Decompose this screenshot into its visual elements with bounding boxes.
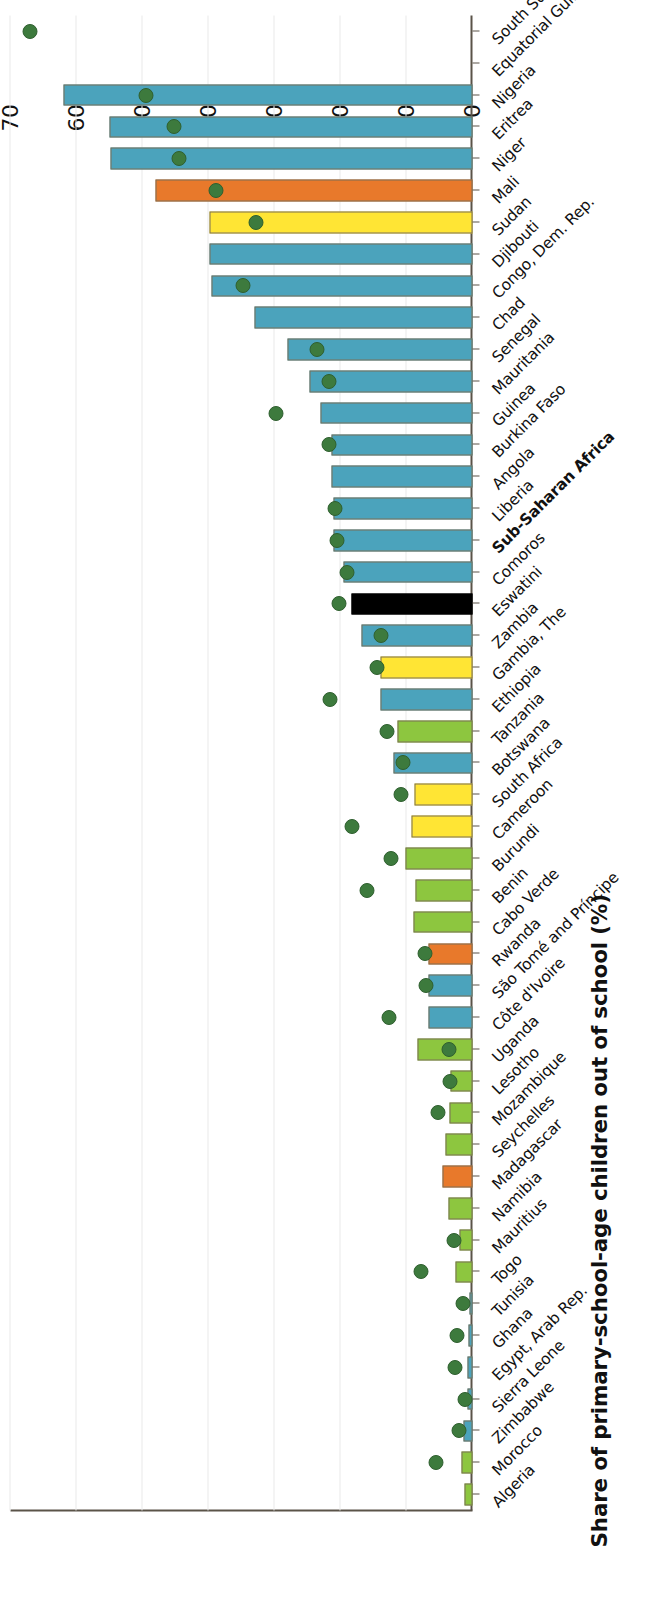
bar-chad xyxy=(254,306,472,328)
category-tick xyxy=(472,1493,479,1494)
category-tick xyxy=(472,952,479,953)
category-tick xyxy=(472,666,479,667)
plot-wrapper: Share of primary-school-age children out… xyxy=(0,0,651,1609)
category-tick xyxy=(472,1143,479,1144)
dot-marker xyxy=(327,501,342,516)
bar-liberia xyxy=(333,497,472,519)
dot-marker xyxy=(208,182,223,197)
bar-niger xyxy=(110,147,472,169)
bar-c-te-d-ivoire xyxy=(428,1006,472,1028)
category-tick xyxy=(472,412,479,413)
bar-benin xyxy=(415,879,472,901)
dot-marker xyxy=(441,1041,456,1056)
bar-sub-saharan-africa xyxy=(333,529,472,551)
category-tick xyxy=(472,1048,479,1049)
value-axis-line xyxy=(10,1509,472,1511)
gridline xyxy=(75,15,76,1510)
dot-marker xyxy=(379,723,394,738)
bar-gambia-the xyxy=(380,656,472,678)
category-tick xyxy=(472,221,479,222)
dot-marker xyxy=(344,819,359,834)
category-tick xyxy=(472,634,479,635)
bar-guinea xyxy=(320,402,472,424)
dot-marker xyxy=(138,87,153,102)
category-tick xyxy=(472,1239,479,1240)
category-tick xyxy=(472,30,479,31)
bar-eritrea xyxy=(109,116,472,138)
bar-rwanda xyxy=(428,943,472,965)
category-tick xyxy=(472,602,479,603)
bar-egypt-arab-rep xyxy=(467,1356,472,1378)
dot-marker xyxy=(447,1359,462,1374)
category-tick xyxy=(472,793,479,794)
bar-tanzania xyxy=(397,720,472,742)
dot-marker xyxy=(446,1232,461,1247)
dot-marker xyxy=(395,755,410,770)
category-tick xyxy=(472,475,479,476)
plot-area: AlgeriaMoroccoZimbabweSierra LeoneEgypt,… xyxy=(10,15,472,1510)
dot-marker xyxy=(430,1105,445,1120)
dot-marker xyxy=(373,628,388,643)
category-tick xyxy=(472,316,479,317)
category-tick xyxy=(472,921,479,922)
gridline xyxy=(9,15,10,1510)
dot-marker xyxy=(268,405,283,420)
category-tick xyxy=(472,1111,479,1112)
category-tick xyxy=(472,889,479,890)
bar-ethiopia xyxy=(380,688,472,710)
category-tick xyxy=(472,253,479,254)
category-tick xyxy=(472,1429,479,1430)
category-tick xyxy=(472,571,479,572)
category-tick xyxy=(472,1398,479,1399)
category-tick xyxy=(472,507,479,508)
bar-cameroon xyxy=(411,815,472,837)
dot-marker xyxy=(171,151,186,166)
bar-south-africa xyxy=(414,784,472,806)
category-tick xyxy=(472,443,479,444)
bar-namibia xyxy=(448,1197,472,1219)
category-tick xyxy=(472,730,479,731)
dot-marker xyxy=(383,850,398,865)
gridline xyxy=(207,15,208,1510)
dot-marker xyxy=(22,23,37,38)
gridline xyxy=(141,15,142,1510)
bar-burkina-faso xyxy=(331,434,472,456)
chart-axis-title: Share of primary-school-age children out… xyxy=(586,827,611,1547)
bar-mali xyxy=(155,179,472,201)
bar-nigeria xyxy=(63,84,472,106)
category-tick xyxy=(472,984,479,985)
category-tick xyxy=(472,825,479,826)
bar-togo xyxy=(455,1261,472,1283)
category-tick xyxy=(472,1461,479,1462)
category-tick xyxy=(472,125,479,126)
category-tick xyxy=(472,539,479,540)
dot-marker xyxy=(248,214,263,229)
dot-marker xyxy=(451,1423,466,1438)
dot-marker xyxy=(449,1328,464,1343)
category-tick xyxy=(472,1302,479,1303)
bar-angola xyxy=(331,465,472,487)
category-tick xyxy=(472,1080,479,1081)
dot-marker xyxy=(428,1455,443,1470)
category-tick xyxy=(472,698,479,699)
category-tick xyxy=(472,1366,479,1367)
dot-marker xyxy=(321,437,336,452)
gridline xyxy=(273,15,274,1510)
category-tick xyxy=(472,157,479,158)
gridline xyxy=(339,15,340,1510)
bar-eswatini xyxy=(351,593,472,615)
category-tick xyxy=(472,1334,479,1335)
category-tick xyxy=(472,1270,479,1271)
category-tick xyxy=(472,380,479,381)
dot-marker xyxy=(329,532,344,547)
dot-marker xyxy=(393,787,408,802)
bar-burundi xyxy=(405,847,472,869)
bar-ghana xyxy=(468,1324,472,1346)
bar-algeria xyxy=(464,1483,472,1505)
dot-marker xyxy=(331,596,346,611)
dot-marker xyxy=(442,1073,457,1088)
chart-canvas: Share of primary-school-age children out… xyxy=(0,0,651,1609)
dot-marker xyxy=(381,1009,396,1024)
dot-marker xyxy=(359,882,374,897)
dot-marker xyxy=(455,1296,470,1311)
